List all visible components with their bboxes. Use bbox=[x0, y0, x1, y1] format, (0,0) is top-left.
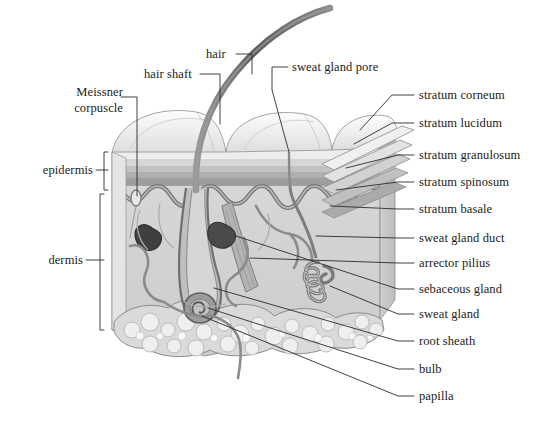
label-sweat-gland-pore: sweat gland pore bbox=[292, 60, 378, 74]
label-sebaceous-gland: sebaceous gland bbox=[419, 282, 502, 296]
skin-anatomy-figure: Meissner corpuscle epidermis dermis hair… bbox=[0, 0, 555, 427]
label-hair-shaft: hair shaft bbox=[144, 67, 192, 81]
label-hair: hair bbox=[206, 47, 226, 61]
label-root-sheath: root sheath bbox=[419, 334, 475, 348]
label-epidermis: epidermis bbox=[18, 163, 93, 177]
label-meissner-line1: Meissner bbox=[76, 85, 123, 99]
label-bulb: bulb bbox=[419, 362, 442, 376]
label-arrector-pilius: arrector pilius bbox=[419, 256, 490, 270]
label-stratum-spinosum: stratum spinosum bbox=[419, 175, 509, 189]
block-left-face bbox=[112, 152, 126, 330]
hair-bulb bbox=[184, 293, 216, 323]
label-papilla: papilla bbox=[419, 389, 454, 403]
label-stratum-corneum: stratum corneum bbox=[419, 88, 505, 102]
label-meissner-line2: corpuscle bbox=[74, 101, 123, 115]
label-stratum-granulosum: stratum granulosum bbox=[419, 148, 520, 162]
label-sweat-gland-duct: sweat gland duct bbox=[419, 231, 505, 245]
label-stratum-lucidum: stratum lucidum bbox=[419, 116, 502, 130]
label-sweat-gland: sweat gland bbox=[419, 307, 479, 321]
skin-surface-ridges bbox=[112, 111, 397, 152]
label-dermis: dermis bbox=[18, 253, 83, 267]
label-stratum-basale: stratum basale bbox=[419, 202, 492, 216]
label-meissner-corpuscle: Meissner corpuscle bbox=[48, 85, 123, 116]
